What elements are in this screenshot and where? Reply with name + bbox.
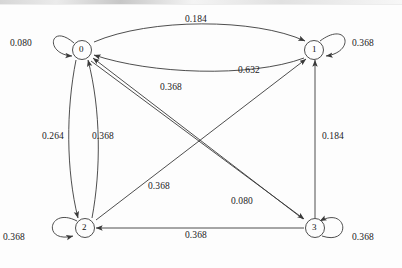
- node-label-3: 3: [312, 222, 317, 232]
- self-loop-2-weight: 0.368: [3, 232, 25, 242]
- diagram-canvas: 0 1 2 3 0.080 0.368 0.368 0.368 0.184 0.…: [0, 0, 402, 268]
- edge-0-to-2-weight: 0.264: [42, 131, 64, 141]
- self-loop-0: [53, 36, 74, 56]
- edge-3-to-2-weight: 0.368: [185, 230, 207, 240]
- node-label-0: 0: [79, 44, 84, 54]
- edge-0-to-1-weight: 0.184: [185, 14, 207, 24]
- self-loop-0-weight: 0.080: [10, 38, 32, 48]
- edge-2-to-1: [96, 59, 306, 220]
- edge-3-to-0-weight: 0.368: [160, 82, 182, 92]
- self-loop-1-weight: 0.368: [352, 38, 374, 48]
- edge-0-to-2: [69, 60, 78, 218]
- edge-2-to-1-weight: 0.368: [148, 181, 170, 191]
- edge-1-to-0: [94, 55, 304, 71]
- self-loop-1: [320, 34, 345, 56]
- edge-1-to-0-weight: 0.632: [238, 65, 260, 75]
- edge-0-to-3-weight: 0.080: [231, 196, 253, 206]
- self-loop-2: [52, 217, 77, 237]
- node-label-2: 2: [82, 222, 87, 232]
- edge-3-to-1-weight: 0.184: [322, 131, 344, 141]
- node-label-1: 1: [312, 44, 317, 54]
- edge-0-to-1: [94, 24, 305, 42]
- edge-2-to-0-weight: 0.368: [92, 131, 114, 141]
- self-loop-3-weight: 0.368: [352, 232, 374, 242]
